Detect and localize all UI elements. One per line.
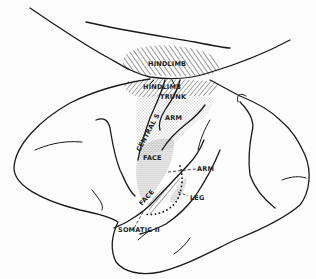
label-leg: LEG (190, 194, 205, 202)
label-hindlimb-lower: HINDLIMB (143, 83, 181, 91)
label-arm-upper: ARM (165, 114, 182, 122)
label-arm-lower: ARM (197, 165, 214, 173)
frontal-lower-line (92, 190, 103, 210)
parietal-sulcus-2 (198, 120, 210, 150)
brain-drawing: HINDLIMB HINDLIMB TRUNK ARM CENTRAL S FA… (0, 0, 316, 279)
principal-sulcus (35, 142, 82, 150)
occipital-sulcus-right (282, 177, 306, 180)
medial-sulcus-line (86, 22, 230, 48)
label-hindlimb-upper: HINDLIMB (148, 60, 186, 68)
brain-diagram: HINDLIMB HINDLIMB TRUNK ARM CENTRAL S FA… (0, 0, 316, 279)
occipital-lobe-line (240, 102, 275, 208)
label-somatic-ii: SOMATIC II (118, 226, 160, 234)
temporal-sulcus-bottom (174, 238, 190, 254)
arcuate-sulcus (96, 119, 135, 196)
label-face-upper: FACE (143, 154, 162, 162)
label-trunk: TRUNK (160, 93, 187, 101)
